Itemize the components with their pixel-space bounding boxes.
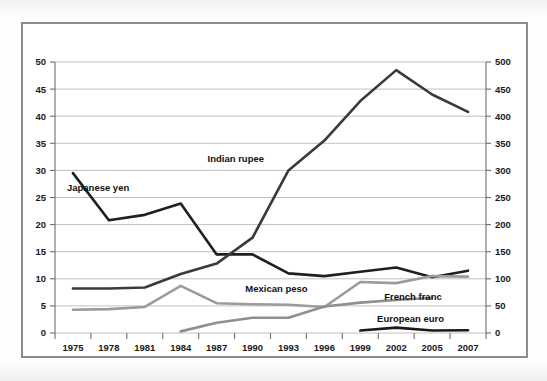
line-chart: 05101520253035404550 0501001502002503003… [21, 22, 528, 358]
y-axis-tick-label: 50 [35, 56, 46, 67]
y2-axis-tick-label: 100 [495, 273, 511, 284]
series-label-japanese-yen: Japanese yen [67, 182, 130, 193]
x-axis-tick-label: 1993 [278, 342, 299, 353]
x-axis-tick-label: 2007 [457, 342, 478, 353]
x-axis-tick-label: 1984 [170, 342, 192, 353]
x-axis-labels: 1975197819811984198719901993199619992002… [62, 342, 478, 353]
series-line-european-euro [360, 328, 468, 331]
y2-axis-tick-label: 50 [495, 300, 506, 311]
x-axis-tick-label: 1978 [98, 342, 119, 353]
x-axis-tick-label: 2005 [422, 342, 444, 353]
x-axis-tick-label: 1999 [350, 342, 371, 353]
series-text-labels: Japanese yenIndian rupeeMexican pesoFren… [67, 153, 444, 324]
y-axis-tick-label: 0 [41, 327, 46, 338]
y2-axis-tick-label: 350 [495, 138, 511, 149]
page-canvas: 05101520253035404550 0501001502002503003… [0, 0, 547, 381]
scan-shade-top [0, 0, 547, 22]
series-line-japanese-yen [73, 173, 468, 277]
x-axis-tick-label: 2002 [386, 342, 407, 353]
y-axis-tick-label: 5 [41, 300, 47, 311]
y2-axis-tick-label: 500 [495, 56, 511, 67]
y2-axis-labels: 050100150200250300350400450500 [495, 56, 511, 338]
x-axis-tick-label: 1990 [242, 342, 263, 353]
y2-axis-tick-label: 200 [495, 219, 511, 230]
y-axis-labels: 05101520253035404550 [35, 56, 46, 338]
series-label-mexican-peso: Mexican peso [245, 283, 307, 294]
y-axis-tick-label: 30 [35, 165, 46, 176]
y-axis-tick-label: 45 [35, 84, 46, 95]
y2-axis-tick-label: 150 [495, 246, 511, 257]
y2-axis-tick-label: 0 [495, 327, 500, 338]
x-axis-tick-label: 1981 [134, 342, 156, 353]
series-line-indian-rupee [73, 70, 468, 288]
y-axis-tick-label: 35 [35, 138, 46, 149]
y2-axis-tick-label: 400 [495, 111, 511, 122]
series-label-indian-rupee: Indian rupee [208, 153, 264, 164]
y-axis-tick-label: 40 [35, 111, 46, 122]
x-axis-tick-label: 1996 [314, 342, 335, 353]
y-axis-tick-label: 25 [35, 192, 46, 203]
y2-axis-tick-label: 300 [495, 165, 511, 176]
y2-axis-tick-label: 450 [495, 84, 511, 95]
series-label-french-franc: French franc [384, 291, 442, 302]
scan-shade-bottom [0, 361, 547, 381]
y2-axis-tick-label: 250 [495, 192, 511, 203]
y-axis-tick-label: 10 [35, 273, 46, 284]
series-label-european-euro: European euro [377, 313, 444, 324]
y-axis-tick-label: 15 [35, 246, 46, 257]
x-axis-tick-label: 1975 [62, 342, 84, 353]
x-axis-tick-label: 1987 [206, 342, 227, 353]
y-axis-tick-label: 20 [35, 219, 46, 230]
